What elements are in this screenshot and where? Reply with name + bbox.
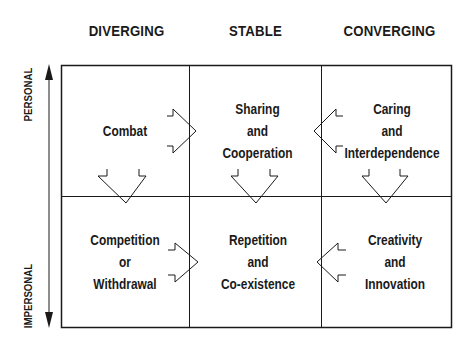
cell-impersonal-converging: Creativity and Innovation [348, 229, 442, 295]
arrow-down-icon [98, 169, 146, 203]
cell-line: Creativity [348, 229, 442, 251]
cell-impersonal-diverging: Competition or Withdrawal [78, 229, 172, 295]
cell-line: and [209, 120, 307, 142]
cell-line: Interdependence [333, 142, 452, 164]
cell-line: Innovation [348, 273, 442, 295]
cell-line: Caring [333, 98, 452, 120]
cell-personal-diverging: Combat [87, 120, 164, 142]
cell-personal-stable: Sharing and Cooperation [209, 98, 307, 164]
axis-arrow-down-icon [45, 312, 53, 328]
cell-line: and [207, 251, 309, 273]
cell-personal-converging: Caring and Interdependence [333, 98, 452, 164]
cell-line: Co-existence [207, 273, 309, 295]
cell-line: Withdrawal [78, 273, 172, 295]
cell-line: Cooperation [209, 142, 307, 164]
arrow-right-icon [167, 109, 196, 153]
cell-line: Competition [78, 229, 172, 251]
cell-line: Combat [87, 120, 164, 142]
arrow-down-icon [231, 169, 278, 203]
cell-line: and [348, 251, 442, 273]
arrow-down-icon [362, 169, 408, 203]
cell-impersonal-stable: Repetition and Co-existence [207, 229, 309, 295]
cell-line: or [78, 251, 172, 273]
cell-line: Sharing [209, 98, 307, 120]
cell-line: Repetition [207, 229, 309, 251]
axis-arrow-up-icon [45, 64, 53, 80]
cell-line: and [333, 120, 452, 142]
arrow-right-icon [168, 243, 198, 282]
